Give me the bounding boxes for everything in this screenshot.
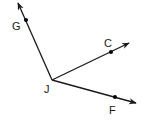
geometry-diagram: G C F J <box>0 0 142 120</box>
ray-jg <box>18 3 52 80</box>
ray-jc <box>52 43 129 80</box>
label-j: J <box>44 83 50 95</box>
ray-jf <box>52 80 136 103</box>
rays-figure: G C F J <box>0 0 142 120</box>
point-g <box>24 18 28 22</box>
label-g: G <box>12 20 21 32</box>
point-f <box>113 95 117 99</box>
label-c: C <box>104 37 112 49</box>
label-f: F <box>109 104 116 116</box>
point-c <box>109 50 113 54</box>
